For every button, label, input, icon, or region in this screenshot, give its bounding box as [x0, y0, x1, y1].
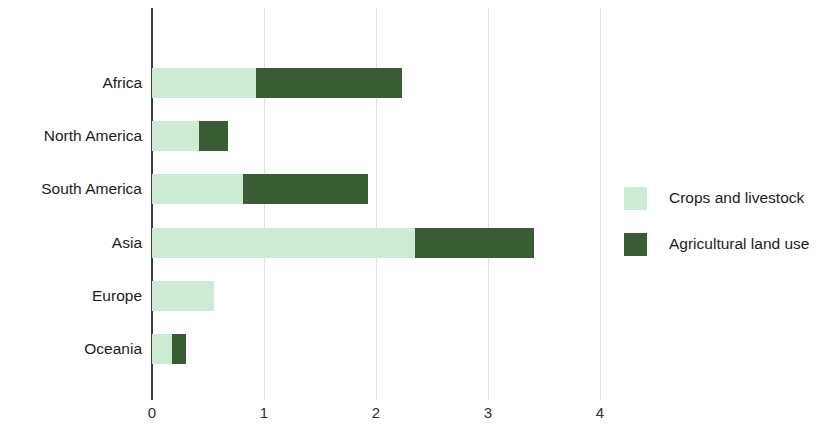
category-label: Oceania — [84, 340, 142, 358]
category-label: Africa — [102, 74, 142, 92]
legend-swatch-icon — [624, 187, 647, 210]
category-label: North America — [44, 127, 142, 145]
bar-segment — [243, 174, 368, 204]
category-label: Europe — [92, 287, 142, 305]
x-tick-label: 2 — [372, 404, 380, 421]
bar-segment — [199, 121, 228, 151]
bar-segment — [152, 281, 214, 311]
bar-segment — [152, 334, 172, 364]
bar-segment — [152, 174, 243, 204]
gridline-2 — [376, 8, 377, 400]
bar-segment — [172, 334, 185, 364]
legend-label: Crops and livestock — [669, 189, 804, 207]
bar-segment — [152, 68, 256, 98]
legend-swatch-icon — [624, 233, 647, 256]
x-tick-label: 4 — [596, 404, 604, 421]
legend-label: Agricultural land use — [669, 235, 809, 253]
bar-segment — [415, 228, 534, 258]
gridline-3 — [488, 8, 489, 400]
x-tick-label: 0 — [148, 404, 156, 421]
bar-segment — [152, 228, 415, 258]
bar-segment — [256, 68, 402, 98]
bar-segment — [152, 121, 199, 151]
gridline-4 — [600, 8, 601, 400]
x-tick-label: 3 — [484, 404, 492, 421]
category-label: South America — [41, 180, 142, 198]
stacked-bar-chart: AfricaNorth AmericaSouth AmericaAsiaEuro… — [0, 0, 840, 425]
category-label: Asia — [112, 234, 142, 252]
x-tick-label: 1 — [260, 404, 268, 421]
legend-item[interactable]: Agricultural land use — [624, 221, 834, 267]
legend-item[interactable]: Crops and livestock — [624, 175, 834, 221]
legend: Crops and livestockAgricultural land use — [624, 175, 834, 267]
